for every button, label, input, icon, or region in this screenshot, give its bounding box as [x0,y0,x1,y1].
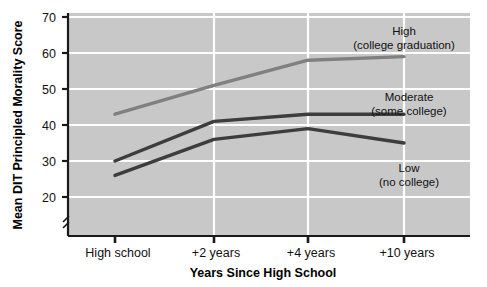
series-annotation-high-title: High [392,25,416,37]
series-annotation-moderate-title: Moderate [385,91,434,103]
y-tick-label-70: 70 [42,11,56,25]
series-annotation-low-title: Low [398,162,420,174]
x-axis-title: Years Since High School [190,266,337,280]
series-annotation-moderate-sublabel: (some college) [371,105,447,117]
y-tick-label-30: 30 [42,155,56,169]
y-tick-label-50: 50 [42,83,56,97]
y-axis-title: Mean DIT Principled Morality Score [11,20,25,229]
y-tick-label-40: 40 [42,119,56,133]
y-tick-label-20: 20 [42,191,56,205]
chart-container: 70 60 50 40 30 20 Mean DIT Principled Mo… [0,0,487,287]
y-tick-label-60: 60 [42,47,56,61]
x-tick-label-high-school: High school [85,246,150,260]
x-tick-label-plus-10-years: +10 years [379,246,434,260]
x-tick-label-plus-4-years: +4 years [287,246,335,260]
series-annotation-high-sublabel: (college graduation) [353,39,455,51]
line-chart: 70 60 50 40 30 20 Mean DIT Principled Mo… [0,0,487,287]
x-tick-label-plus-2-years: +2 years [192,246,240,260]
series-annotation-low-sublabel: (no college) [379,176,439,188]
